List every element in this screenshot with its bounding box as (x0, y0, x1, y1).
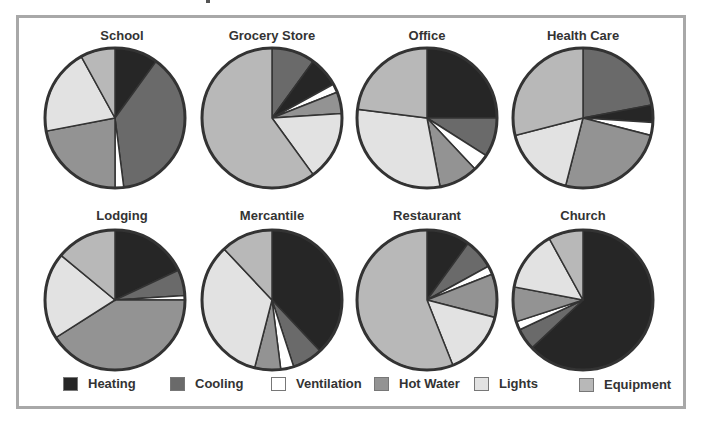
pie-title-grocery-store: Grocery Store (192, 28, 352, 43)
legend-label: Equipment (604, 377, 671, 392)
ventilation-swatch-icon (271, 377, 286, 391)
legend-label: Lights (499, 376, 538, 391)
pie-grocery-store (202, 48, 342, 188)
pie-mercantile (202, 230, 342, 370)
pie-school (45, 48, 185, 188)
legend-label: Cooling (195, 376, 243, 391)
legend-item-ventilation: Ventilation (271, 376, 362, 391)
legend-item-hot-water: Hot Water (374, 376, 460, 391)
pie-title-health-care: Health Care (503, 28, 663, 43)
legend-item-heating: Heating (63, 376, 136, 391)
cooling-swatch-icon (170, 377, 185, 391)
pie-health-care (513, 48, 653, 188)
pie-title-mercantile: Mercantile (192, 208, 352, 223)
legend-label: Ventilation (296, 376, 362, 391)
legend-label: Hot Water (399, 376, 460, 391)
legend-label: Heating (88, 376, 136, 391)
hot-water-swatch-icon (374, 377, 389, 391)
pie-title-restaurant: Restaurant (347, 208, 507, 223)
equipment-swatch-icon (579, 378, 594, 392)
legend-item-lights: Lights (474, 376, 538, 391)
pie-lodging (45, 230, 185, 370)
pie-restaurant (357, 230, 497, 370)
pie-title-office: Office (347, 28, 507, 43)
pie-church (513, 230, 653, 370)
pie-title-church: Church (503, 208, 663, 223)
pie-office (357, 48, 497, 188)
lights-swatch-icon (474, 377, 489, 391)
heating-swatch-icon (63, 377, 78, 391)
pie-title-lodging: Lodging (42, 208, 202, 223)
legend-item-equipment: Equipment (579, 377, 671, 392)
pie-title-school: School (42, 28, 202, 43)
legend-item-cooling: Cooling (170, 376, 243, 391)
pie-slice-lights (357, 109, 440, 188)
